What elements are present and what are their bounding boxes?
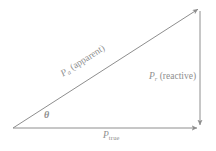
reactive-qualifier: (reactive) [160,71,196,81]
apparent-power-vector [13,9,198,128]
label-true-power: Ptrue [103,131,120,141]
label-angle-theta: θ [44,110,49,120]
power-triangle-diagram: Pa (apparent) Pr (reactive) Ptrue θ [0,0,216,151]
true-subscript: true [109,134,120,141]
label-reactive-power: Pr (reactive) [149,72,196,82]
